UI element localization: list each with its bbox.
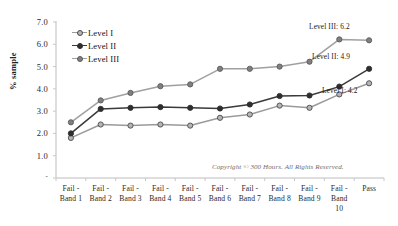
data-point (68, 120, 73, 125)
chart-legend: Level I Level II Level III (72, 26, 119, 65)
data-point (158, 122, 163, 127)
legend-item-level-1: Level I (72, 26, 119, 39)
annotation-level-3: Level III: 6.2 (309, 22, 350, 31)
legend-marker-level-1 (72, 28, 87, 37)
data-point (188, 105, 193, 110)
x-tick-line: Band (322, 194, 356, 204)
data-point (217, 106, 222, 111)
legend-dot-level-2 (77, 43, 83, 49)
annotation-level-1: Level I: 4.2 (322, 86, 357, 95)
copyright-note: Copyright © 300 Hours. All Rights Reserv… (212, 163, 344, 171)
legend-item-level-3: Level III (72, 52, 119, 65)
data-point (98, 98, 103, 103)
data-point (277, 103, 282, 108)
data-point (277, 64, 282, 69)
data-point (188, 82, 193, 87)
data-point (217, 66, 222, 71)
legend-label-level-1: Level I (88, 28, 113, 38)
x-tick-line: Pass (352, 184, 386, 194)
data-point (128, 123, 133, 128)
data-point (68, 131, 73, 136)
data-point (307, 105, 312, 110)
legend-label-level-3: Level III (88, 54, 119, 64)
data-point (128, 90, 133, 95)
data-point (128, 105, 133, 110)
line-chart: % sample -1.02.03.04.05.06.07.0 Fail -Ba… (0, 0, 398, 226)
data-point (217, 115, 222, 120)
legend-dot-level-1 (77, 30, 83, 36)
legend-label-level-2: Level II (88, 41, 116, 51)
legend-dot-level-3 (77, 56, 83, 62)
data-point (367, 66, 372, 71)
legend-marker-level-3 (72, 54, 87, 63)
data-point (277, 93, 282, 98)
annotation-level-2: Level II: 4.9 (312, 52, 350, 61)
data-point (188, 123, 193, 128)
data-point (247, 66, 252, 71)
data-point (307, 93, 312, 98)
data-point (247, 102, 252, 107)
legend-marker-level-2 (72, 41, 87, 50)
legend-item-level-2: Level II (72, 39, 119, 52)
data-point (367, 81, 372, 86)
data-point (367, 38, 372, 43)
data-point (158, 105, 163, 110)
data-point (247, 112, 252, 117)
data-point (98, 122, 103, 127)
x-tick-10: Pass (352, 184, 386, 194)
x-tick-line: 10 (322, 204, 356, 214)
data-point (158, 84, 163, 89)
data-point (98, 106, 103, 111)
data-point (337, 37, 342, 42)
